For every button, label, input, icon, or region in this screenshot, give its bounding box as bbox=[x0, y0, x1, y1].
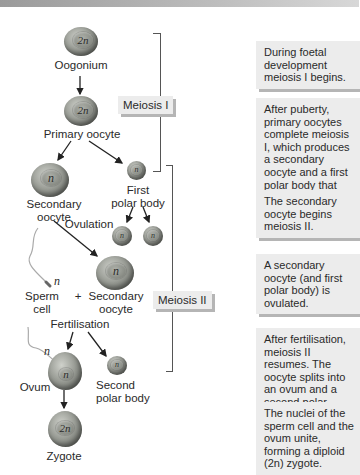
plus-sign: + bbox=[72, 290, 84, 303]
secondary-oocyte-2-label: Secondary oocyte bbox=[86, 290, 146, 316]
secondary-oocyte-2-cell: n bbox=[96, 256, 134, 290]
ovum-cell: n bbox=[48, 352, 82, 390]
primary-oocyte-nucleus: 2n bbox=[73, 102, 93, 118]
oogonium-label: Oogonium bbox=[52, 59, 110, 72]
polar-body-b-nucleus: n bbox=[147, 230, 159, 241]
first-polar-body-nucleus: n bbox=[131, 165, 142, 175]
polar-body-a-nucleus: n bbox=[116, 230, 128, 241]
zygote-cell: 2n bbox=[48, 411, 82, 447]
arrow-primary-secondary bbox=[58, 141, 71, 160]
oogonium-cell: 2n bbox=[64, 27, 98, 56]
sperm-tail bbox=[29, 228, 46, 282]
first-polar-body-label-line1: First bbox=[108, 184, 168, 197]
arrow-primary-polar bbox=[89, 141, 122, 163]
ovum-sperm-ploidy: n bbox=[43, 345, 51, 358]
first-polar-body-label-line2: polar body bbox=[108, 197, 168, 210]
second-polar-body-label-line2: polar body bbox=[96, 392, 156, 405]
sperm-label-line2: cell bbox=[22, 303, 62, 316]
secondary-oocyte-2-label-line1: Secondary bbox=[86, 290, 146, 303]
ovum-nucleus: n bbox=[59, 368, 73, 380]
meiosis2-bracket-bottom bbox=[166, 371, 173, 372]
zygote-label: Zygote bbox=[42, 450, 86, 463]
meiosis2-bracket-vertical bbox=[172, 165, 173, 371]
first-polar-body-cell: n bbox=[127, 161, 146, 180]
first-polar-body-label: First polar body bbox=[108, 184, 168, 210]
arrow-fertilisation-polar bbox=[88, 332, 106, 356]
zygote-nucleus: 2n bbox=[56, 421, 74, 435]
ovulation-label: Ovulation bbox=[64, 218, 114, 231]
oogonium-nucleus: 2n bbox=[73, 32, 93, 48]
note-foetal-development: During foetal development meiosis I begi… bbox=[256, 41, 360, 89]
arrow-fertilisation-ovum bbox=[68, 332, 73, 349]
polar-body-a-cell: n bbox=[112, 226, 132, 246]
second-polar-body-label-line1: Second bbox=[96, 379, 156, 392]
sperm-label: Sperm cell bbox=[22, 290, 62, 316]
second-polar-body-cell: n bbox=[107, 356, 127, 375]
secondary-oocyte-2-nucleus: n bbox=[106, 263, 126, 279]
ovum-label: Ovum bbox=[18, 381, 52, 394]
sperm-ploidy: n bbox=[52, 275, 62, 288]
second-polar-body-label: Second polar body bbox=[96, 379, 156, 405]
meiosis2-label: Meiosis II bbox=[153, 291, 212, 309]
note-ovulated: A secondary oocyte (and first polar body… bbox=[256, 254, 360, 314]
primary-oocyte-label: Primary oocyte bbox=[42, 128, 122, 141]
meiosis1-bracket-bottom bbox=[153, 171, 161, 172]
secondary-oocyte-label-line1: Secondary bbox=[24, 198, 84, 211]
sperm-label-line1: Sperm bbox=[22, 290, 62, 303]
sperm-tail-ovum bbox=[28, 327, 56, 362]
note-begins-meiosis2: The secondary oocyte begins meiosis II. bbox=[256, 190, 360, 238]
primary-oocyte-cell: 2n bbox=[64, 96, 98, 126]
secondary-oocyte-nucleus: n bbox=[41, 170, 61, 186]
note-zygote: The nuclei of the sperm cell and the ovu… bbox=[256, 402, 360, 475]
secondary-oocyte-cell: n bbox=[31, 163, 69, 197]
second-polar-body-nucleus: n bbox=[111, 360, 123, 370]
secondary-oocyte-2-label-line2: oocyte bbox=[86, 303, 146, 316]
meiosis1-label: Meiosis I bbox=[118, 96, 173, 114]
fertilisation-label: Fertilisation bbox=[50, 318, 110, 331]
polar-body-b-cell: n bbox=[143, 226, 163, 246]
